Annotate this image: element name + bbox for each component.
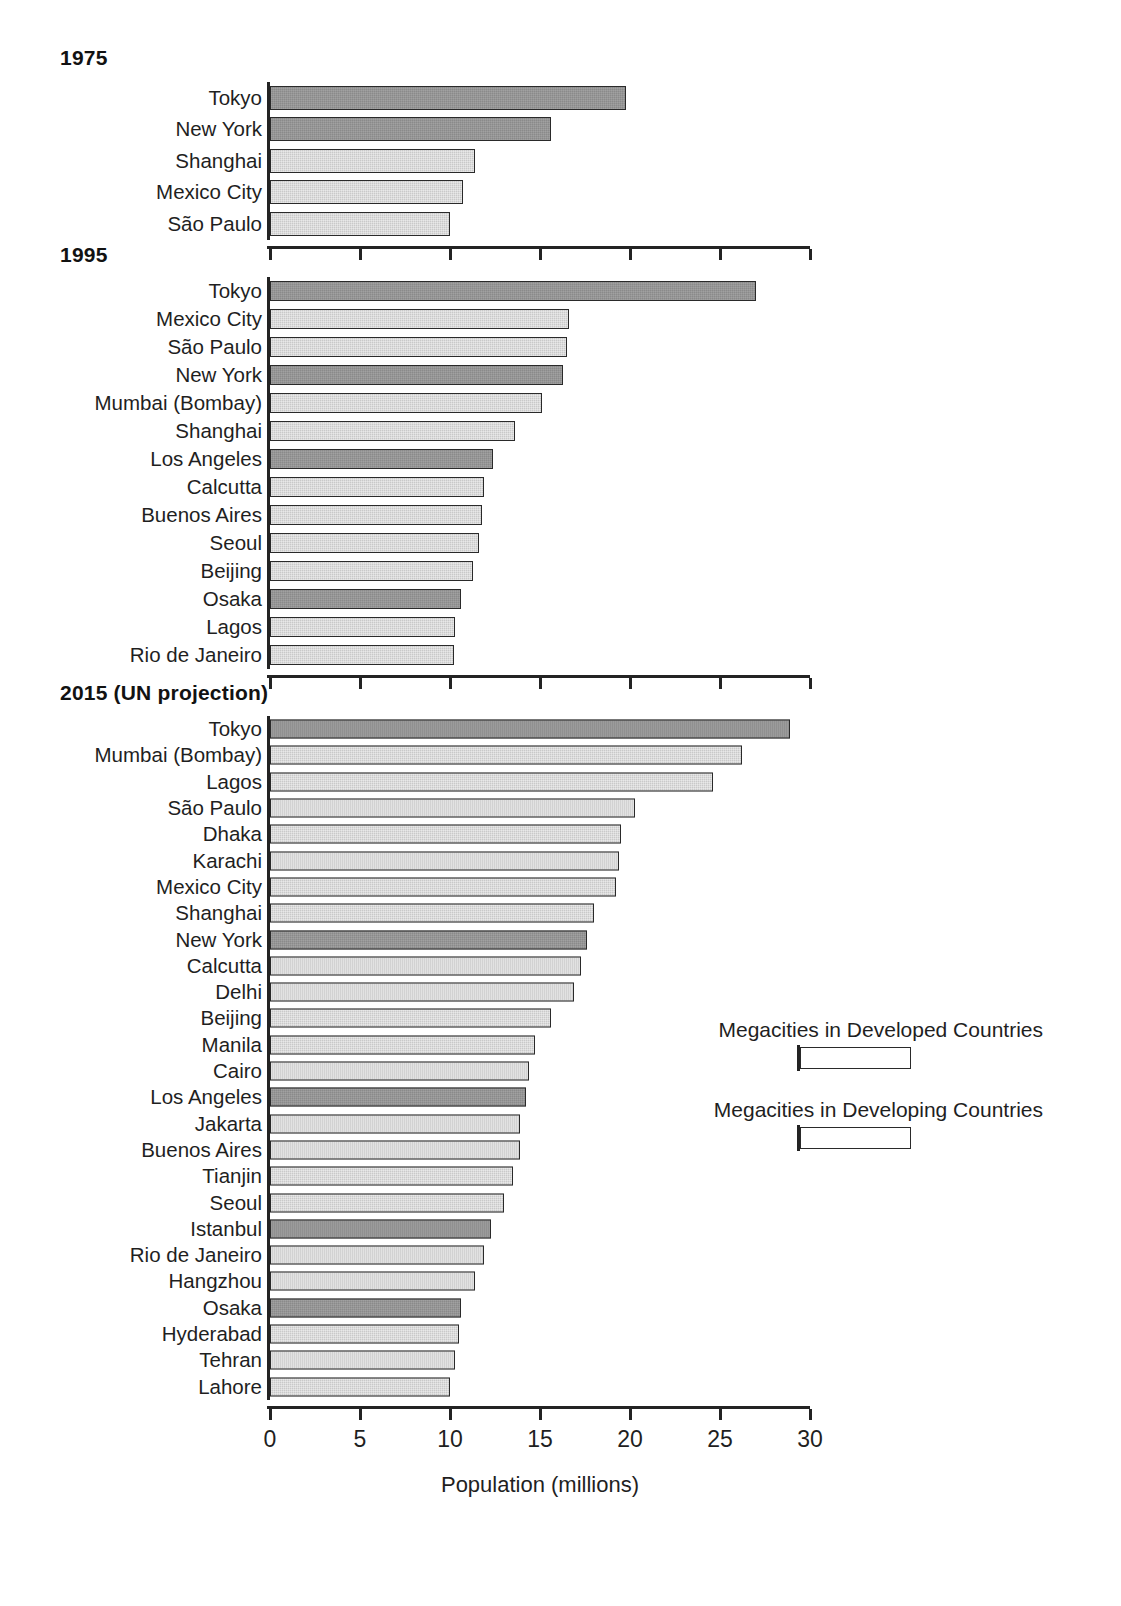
bar-row: Osaka [0, 1295, 1121, 1321]
x-axis-tick [719, 678, 722, 689]
category-label: Buenos Aires [141, 505, 262, 526]
bar-row: São Paulo [0, 795, 1121, 821]
bar-developing [270, 1325, 459, 1344]
category-label: Hangzhou [169, 1271, 262, 1292]
category-label: Karachi [192, 850, 262, 871]
category-label: Shanghai [175, 151, 262, 172]
bar-row: Shanghai [0, 417, 1121, 445]
x-axis-tick [809, 678, 812, 689]
x-axis-tick [359, 1409, 362, 1420]
bar-developing [270, 533, 479, 553]
x-axis-tick [719, 1409, 722, 1420]
category-label: Calcutta [187, 477, 262, 498]
bar-row: Mexico City [0, 177, 1121, 209]
category-label: Osaka [203, 1297, 262, 1318]
bar-developing [270, 561, 473, 581]
category-label: New York [175, 929, 262, 950]
bar-developing [270, 746, 742, 765]
bar-developing [270, 904, 594, 923]
bar-row: Buenos Aires [0, 501, 1121, 529]
legend-label: Megacities in Developed Countries [718, 1018, 1043, 1042]
bar-developing [270, 421, 515, 441]
x-axis-tick [629, 249, 632, 260]
panel-title-2015: 2015 (UN projection) [60, 681, 268, 705]
x-axis-tick [269, 249, 272, 260]
category-label: São Paulo [167, 214, 262, 235]
panel-title-1995: 1995 [60, 243, 108, 267]
category-label: Shanghai [175, 903, 262, 924]
bar-developing [270, 645, 454, 665]
bar-developing [270, 877, 616, 896]
category-label: Seoul [210, 533, 262, 554]
bar-row: Seoul [0, 529, 1121, 557]
x-tick-label: 20 [617, 1426, 643, 1453]
bar-row: Hangzhou [0, 1268, 1121, 1294]
bar-developed [270, 589, 461, 609]
category-label: Tehran [199, 1350, 262, 1371]
bar-rows: TokyoMexico CitySão PauloNew YorkMumbai … [0, 277, 1121, 669]
bar-developing [270, 851, 619, 870]
legend-entry: Megacities in Developing Countries [0, 1098, 1121, 1158]
legend-swatch-developing [800, 1127, 911, 1149]
panel-1975: TokyoNew YorkShanghaiMexico CitySão Paul… [0, 82, 1121, 268]
bar-row: Lahore [0, 1374, 1121, 1400]
category-label: Tokyo [208, 281, 262, 302]
category-label: Mexico City [156, 182, 262, 203]
category-label: Istanbul [190, 1219, 262, 1240]
category-label: Tokyo [208, 88, 262, 109]
bar-row: Osaka [0, 585, 1121, 613]
legend-label: Megacities in Developing Countries [714, 1098, 1043, 1122]
bar-developed [270, 930, 587, 949]
bar-row: Hyderabad [0, 1321, 1121, 1347]
x-tick-label: 0 [264, 1426, 277, 1453]
category-label: Shanghai [175, 421, 262, 442]
bar-row: New York [0, 926, 1121, 952]
panel-title-1975: 1975 [60, 46, 108, 70]
legend: Megacities in Developed CountriesMegacit… [0, 1018, 1121, 1168]
bar-row: Seoul [0, 1189, 1121, 1215]
x-axis-tick [719, 249, 722, 260]
bar-developed [270, 1298, 461, 1317]
bar-developing [270, 1351, 455, 1370]
x-axis-tick [539, 1409, 542, 1420]
bar-row: Tokyo [0, 277, 1121, 305]
bar-row: Calcutta [0, 473, 1121, 501]
bar-developing [270, 477, 484, 497]
bar-developing [270, 1167, 513, 1186]
bar-developing [270, 617, 455, 637]
x-axis-tick [449, 249, 452, 260]
category-label: São Paulo [167, 798, 262, 819]
category-label: Mumbai (Bombay) [95, 745, 262, 766]
category-label: Tokyo [208, 719, 262, 740]
bar-developed [270, 86, 626, 110]
x-axis-tick [359, 678, 362, 689]
bar-row: Tokyo [0, 716, 1121, 742]
category-label: Rio de Janeiro [130, 1245, 262, 1266]
bar-row: Mexico City [0, 874, 1121, 900]
bar-developing [270, 1377, 450, 1396]
category-label: Osaka [203, 589, 262, 610]
legend-entry: Megacities in Developed Countries [0, 1018, 1121, 1078]
bar-row: São Paulo [0, 333, 1121, 361]
bar-row: Beijing [0, 557, 1121, 585]
x-tick-label: 15 [527, 1426, 553, 1453]
x-tick-label: 5 [354, 1426, 367, 1453]
category-label: New York [175, 119, 262, 140]
bar-row: Mumbai (Bombay) [0, 389, 1121, 417]
x-axis-tick [809, 1409, 812, 1420]
bar-row: Calcutta [0, 953, 1121, 979]
bar-developing [270, 337, 567, 357]
bar-developing [270, 149, 475, 173]
category-label: Tianjin [202, 1166, 262, 1187]
bar-developed [270, 1219, 491, 1238]
bar-row: Rio de Janeiro [0, 641, 1121, 669]
x-axis-tick [629, 678, 632, 689]
x-axis-tick [269, 678, 272, 689]
megacities-chart-figure: 1975 TokyoNew YorkShanghaiMexico CitySão… [0, 0, 1121, 1606]
bar-developing [270, 956, 581, 975]
y-axis-line [267, 82, 270, 240]
bar-row: Los Angeles [0, 445, 1121, 473]
bar-developing [270, 1246, 484, 1265]
x-axis-title: Population (millions) [441, 1472, 639, 1498]
bar-row: Karachi [0, 848, 1121, 874]
